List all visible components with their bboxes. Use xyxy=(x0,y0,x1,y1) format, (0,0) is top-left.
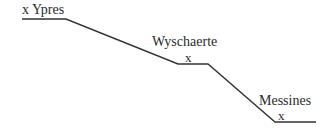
label-ypres: x Ypres xyxy=(22,3,64,17)
marker-wyschaerte: x xyxy=(185,51,192,64)
label-wyschaerte: Wyschaerte xyxy=(152,35,217,49)
marker-messines: x xyxy=(278,109,285,122)
label-messines: Messines xyxy=(259,94,311,108)
